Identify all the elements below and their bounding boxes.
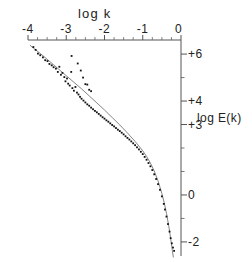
data-point	[142, 153, 144, 155]
data-point	[169, 231, 171, 233]
data-point	[157, 183, 159, 185]
data-point	[166, 216, 168, 218]
data-point	[100, 115, 102, 117]
x-tick-label: -2	[99, 23, 111, 35]
y-tick-label: +4	[188, 95, 203, 107]
data-point	[104, 118, 106, 120]
data-point	[49, 63, 51, 65]
data-point	[171, 242, 173, 244]
data-point	[53, 66, 55, 68]
data-point	[39, 54, 41, 56]
data-point	[117, 129, 119, 131]
y-tick-label: -2	[188, 236, 200, 248]
data-point	[69, 85, 71, 87]
data-point	[113, 126, 115, 128]
data-point-group	[32, 46, 175, 252]
data-point	[35, 49, 37, 51]
data-point	[172, 247, 174, 249]
y-axis-ticks	[181, 54, 187, 242]
data-point	[153, 173, 155, 175]
spectrum-plot	[0, 0, 252, 262]
data-point	[92, 108, 94, 110]
y-tick-label: +6	[188, 48, 203, 60]
data-point	[75, 86, 77, 88]
data-point	[159, 189, 161, 191]
data-point	[84, 102, 86, 104]
data-point	[63, 76, 65, 78]
data-point	[125, 135, 127, 137]
data-point	[76, 92, 78, 94]
data-point	[121, 132, 123, 134]
data-point	[127, 137, 129, 139]
data-point	[51, 64, 53, 66]
data-point	[128, 139, 130, 141]
data-point	[88, 89, 90, 91]
data-point	[42, 56, 44, 58]
data-point	[71, 87, 73, 89]
x-tick-label: -1	[137, 23, 149, 35]
data-point	[136, 146, 138, 148]
figure-container: log k log E(k) -4-3-2-10 +6+4+30-2	[0, 0, 252, 262]
data-point	[84, 83, 86, 85]
data-point	[57, 71, 59, 73]
data-point	[167, 223, 169, 225]
x-tick-label: 0	[175, 23, 182, 35]
data-point	[123, 133, 125, 135]
x-tick-label: -3	[60, 23, 72, 35]
data-point	[134, 144, 136, 146]
data-point	[73, 90, 75, 92]
y-tick-label: 0	[188, 189, 195, 201]
data-point	[86, 103, 88, 105]
data-point	[44, 59, 46, 61]
data-point	[58, 66, 60, 68]
y-tick-label: +3	[188, 119, 203, 131]
data-point	[155, 178, 157, 180]
data-point	[88, 105, 90, 107]
data-point	[86, 84, 88, 86]
data-point	[47, 60, 49, 62]
data-point	[161, 195, 163, 197]
data-point	[144, 156, 146, 158]
data-point	[77, 63, 79, 65]
data-point	[65, 80, 67, 82]
data-point	[111, 124, 113, 126]
data-point	[164, 209, 166, 211]
data-point	[55, 68, 57, 70]
data-point	[90, 90, 92, 92]
fitted-curve	[30, 45, 173, 257]
data-point	[148, 162, 150, 164]
data-point	[132, 142, 134, 144]
data-point	[173, 250, 175, 252]
data-point	[71, 55, 73, 57]
data-point	[81, 98, 83, 100]
data-point	[67, 83, 69, 85]
data-point	[32, 46, 34, 48]
data-point	[146, 159, 148, 161]
data-point	[102, 116, 104, 118]
data-point	[151, 169, 153, 171]
data-point	[94, 110, 96, 112]
data-point	[170, 237, 172, 239]
data-point	[80, 70, 82, 72]
data-point	[140, 151, 142, 153]
data-point	[107, 121, 109, 123]
data-point	[66, 78, 68, 80]
x-axis-title: log k	[78, 7, 111, 20]
data-point	[109, 122, 111, 124]
data-point	[37, 53, 39, 55]
data-point	[60, 74, 62, 76]
data-point	[115, 127, 117, 129]
data-point	[82, 77, 84, 79]
data-point	[79, 96, 81, 98]
data-point	[130, 141, 132, 143]
data-point	[83, 100, 85, 102]
data-point	[150, 165, 152, 167]
x-tick-label: -4	[22, 23, 34, 35]
data-point	[62, 72, 64, 74]
data-point	[70, 71, 72, 73]
data-point	[78, 94, 80, 96]
data-point	[98, 113, 100, 115]
y-axis-title: log E(k)	[197, 112, 242, 124]
data-point	[163, 203, 165, 205]
data-point	[119, 130, 121, 132]
